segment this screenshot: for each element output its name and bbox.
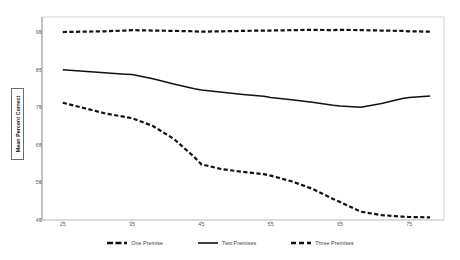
series-line-one-premise [63,30,430,32]
legend-label: Two Premises [222,240,256,246]
series-line-two-premises [63,70,430,108]
legend-label: Three Premises [315,240,354,246]
legend-item-three-premises[interactable]: Three Premises [290,240,354,246]
plot-area [0,0,460,260]
legend-swatch-icon [106,240,128,246]
series-line-three-premises [63,103,430,218]
legend-label: One Premise [131,240,163,246]
plot-border [42,17,444,220]
legend-item-one-premise[interactable]: One Premise [106,240,163,246]
chart-figure: Mean Percent Correct 455565758595 253545… [0,0,460,260]
legend-item-two-premises[interactable]: Two Premises [197,240,256,246]
data-series-group [63,30,430,218]
legend-swatch-icon [290,240,312,246]
legend-swatch-icon [197,240,219,246]
axes [39,17,444,223]
chart-legend: One PremiseTwo PremisesThree Premises [0,236,460,250]
